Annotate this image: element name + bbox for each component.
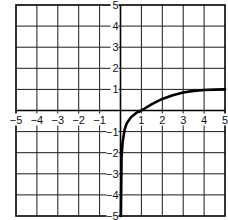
x-tick-label: −2 (72, 114, 85, 126)
x-tick-label: 5 (222, 114, 228, 126)
x-tick-label: 4 (201, 114, 207, 126)
y-tick-label: 2 (112, 62, 118, 74)
x-tick-label: −4 (31, 114, 44, 126)
x-tick-label: −3 (52, 114, 65, 126)
x-tick-label: −5 (10, 114, 23, 126)
y-tick-label: 4 (112, 20, 118, 32)
y-tick-label: −3 (106, 168, 119, 180)
x-tick-label: 1 (138, 114, 144, 126)
y-tick-label: −5 (106, 210, 119, 220)
y-tick-label: −1 (106, 126, 119, 138)
x-tick-label: 2 (159, 114, 165, 126)
x-tick-label: 3 (180, 114, 186, 126)
y-tick-label: 1 (112, 83, 118, 95)
y-tick-label: 5 (112, 0, 118, 11)
y-tick-label: −2 (106, 147, 119, 159)
x-axis-tick-labels: −5−4−3−2−112345 (10, 114, 228, 126)
function-graph: −5−4−3−2−112345 54321−1−2−3−4−5 (0, 0, 228, 220)
x-tick-label: −1 (93, 114, 106, 126)
y-tick-label: 3 (112, 41, 118, 53)
y-tick-label: −4 (106, 189, 119, 201)
